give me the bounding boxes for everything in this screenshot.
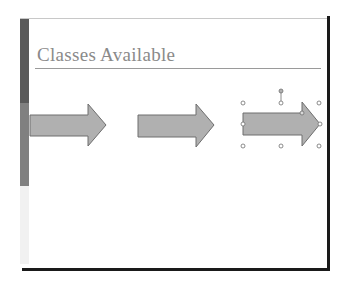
resize-handle-middle-left[interactable] xyxy=(241,122,245,126)
resize-handle-top-left[interactable] xyxy=(241,101,245,105)
right-arrow-shape-1[interactable] xyxy=(30,104,106,146)
resize-handle-top-right[interactable] xyxy=(317,101,321,105)
right-arrow-shape-2[interactable] xyxy=(138,104,214,147)
adjustment-handle[interactable] xyxy=(300,111,304,115)
resize-handle-bottom-right[interactable] xyxy=(317,144,321,148)
resize-handle-top-center[interactable] xyxy=(279,101,283,105)
resize-handle-bottom-center[interactable] xyxy=(279,144,283,148)
resize-handle-bottom-left[interactable] xyxy=(241,144,245,148)
resize-handle-middle-right[interactable] xyxy=(318,122,322,126)
right-arrow-shape-3-selected[interactable] xyxy=(243,102,320,146)
rotation-handle[interactable] xyxy=(279,89,283,93)
